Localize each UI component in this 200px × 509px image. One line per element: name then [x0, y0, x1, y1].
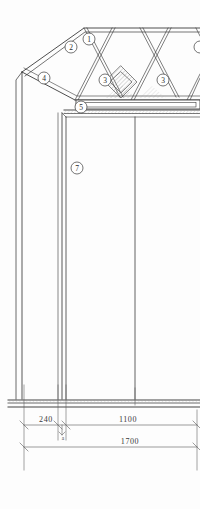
callout-edge-partial	[194, 41, 200, 53]
callout-3-right-label: 3	[161, 76, 165, 85]
callout-3-left-label: 3	[103, 76, 107, 85]
dimension-240: 240	[39, 415, 53, 424]
callout-4[interactable]: 4	[38, 72, 50, 84]
cad-drawing-canvas: 1 2 4 3 3 5 7	[0, 0, 200, 509]
callout-4-label: 4	[42, 74, 46, 83]
column-post	[58, 113, 66, 399]
callout-5[interactable]: 5	[75, 101, 87, 113]
callout-5-label: 5	[79, 103, 83, 112]
callout-1[interactable]: 1	[83, 33, 95, 45]
callout-2[interactable]: 2	[65, 41, 77, 53]
annotation-a: a	[62, 435, 65, 441]
exterior-wall	[16, 72, 22, 399]
floor-slab	[8, 400, 200, 407]
callout-7[interactable]: 7	[71, 162, 83, 174]
dimension-1700: 1700	[121, 437, 139, 446]
dimension-1100: 1100	[119, 415, 137, 424]
callout-7-label: 7	[75, 164, 79, 173]
callout-2-label: 2	[69, 43, 73, 52]
section-drawing-svg: 1 2 4 3 3 5 7	[0, 0, 200, 509]
dimension-extension-lines	[24, 385, 197, 470]
dimension-line-overall	[20, 443, 200, 451]
callout-1-label: 1	[87, 35, 91, 44]
dimension-text-group: 240 1100 1700 a	[39, 415, 139, 446]
glazing-panel-line	[66, 117, 200, 399]
callout-3-left[interactable]: 3	[99, 74, 111, 86]
callout-3-right[interactable]: 3	[157, 74, 169, 86]
